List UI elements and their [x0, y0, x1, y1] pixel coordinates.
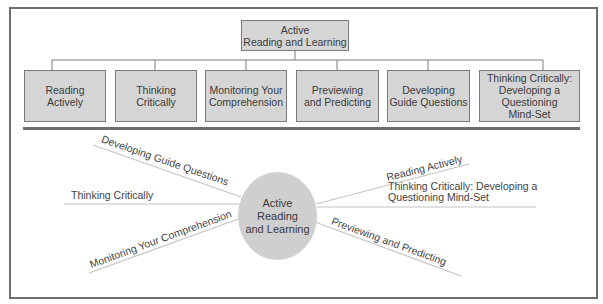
node-reading-actively: Reading Actively [24, 70, 106, 122]
spoke-label-thinking-critically-mindset: Thinking Critically: Developing a Questi… [388, 181, 537, 203]
node-developing-guide-questions: Developing Guide Questions [387, 70, 470, 122]
node-thinking-critically: Thinking Critically [115, 70, 197, 122]
node-monitoring-comprehension: Monitoring Your Comprehension [205, 70, 287, 122]
root-node: Active Reading and Learning [241, 20, 349, 51]
spoke-label-thinking-critically: Thinking Critically [71, 189, 153, 201]
section-divider [23, 127, 580, 130]
node-previewing-predicting: Previewing and Predicting [296, 70, 379, 122]
web-center-node: Active Reading and Learning [238, 172, 317, 260]
node-thinking-critically-mindset: Thinking Critically: Developing a Questi… [479, 70, 580, 122]
